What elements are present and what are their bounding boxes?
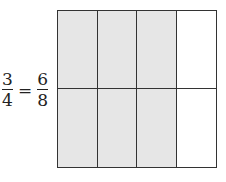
shaded-cell [137, 89, 177, 167]
numerator: 6 [37, 70, 48, 88]
shaded-cell [98, 89, 138, 167]
numerator: 3 [2, 70, 13, 88]
equals-sign: = [18, 80, 32, 100]
shaded-cell [58, 11, 98, 89]
denominator: 4 [2, 91, 13, 109]
unshaded-cell [177, 89, 217, 167]
fraction-grid [57, 10, 217, 168]
shaded-cell [137, 11, 177, 89]
fraction-equation: 3 4 = 6 8 [2, 70, 48, 109]
fraction-six-eighths: 6 8 [37, 70, 48, 109]
shaded-cell [98, 11, 138, 89]
shaded-cell [58, 89, 98, 167]
fraction-three-quarters: 3 4 [2, 70, 13, 109]
unshaded-cell [177, 11, 217, 89]
denominator: 8 [37, 91, 48, 109]
